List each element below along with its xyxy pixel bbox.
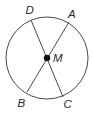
label-d: D <box>26 4 34 16</box>
center-point-m <box>44 55 50 61</box>
circle-diagram: D A M B C <box>0 0 93 114</box>
label-m: M <box>53 52 63 64</box>
label-a: A <box>67 8 76 20</box>
label-c: C <box>64 98 73 110</box>
label-b: B <box>18 97 26 109</box>
